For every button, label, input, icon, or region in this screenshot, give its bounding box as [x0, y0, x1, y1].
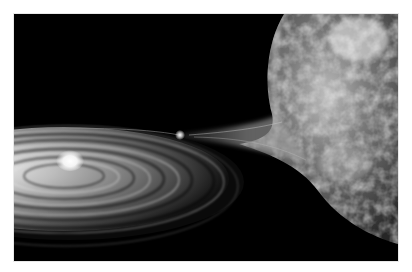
photo-frame: [14, 14, 398, 261]
hot-spot: [175, 130, 185, 140]
compact-star-core: [56, 149, 84, 171]
binary-star-image: [14, 14, 398, 261]
